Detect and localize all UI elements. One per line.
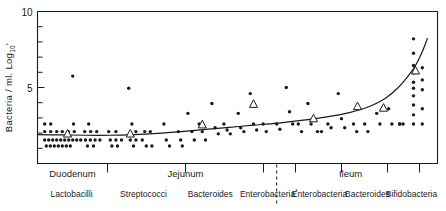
data-point — [366, 130, 369, 133]
data-point — [95, 130, 98, 133]
data-point — [149, 130, 152, 133]
data-point — [145, 144, 148, 147]
data-point — [229, 132, 232, 135]
axis-labels: 105Bacteria / ml. Log10'DuodenumJejunumI… — [3, 7, 438, 200]
data-point — [150, 144, 153, 147]
data-point — [109, 138, 112, 141]
group-label-5: Bacteroides — [345, 189, 390, 199]
data-point — [43, 122, 46, 125]
data-point — [329, 126, 332, 129]
data-point — [134, 130, 137, 133]
median-marker — [126, 129, 134, 137]
data-point — [401, 122, 404, 125]
data-point — [213, 126, 216, 129]
data-point — [61, 130, 64, 133]
data-point — [337, 92, 340, 95]
data-point — [65, 144, 68, 147]
region-label-ileum: Ileum — [339, 168, 362, 179]
data-point — [412, 37, 415, 40]
median-marker — [63, 129, 71, 137]
data-point — [134, 138, 137, 141]
data-point — [143, 130, 146, 133]
data-point — [79, 138, 82, 141]
data-point — [190, 130, 193, 133]
data-point — [255, 128, 258, 131]
data-point — [72, 122, 75, 125]
data-point — [55, 138, 58, 141]
data-point — [275, 122, 278, 125]
data-point — [47, 138, 50, 141]
data-point — [378, 122, 381, 125]
data-point — [55, 130, 58, 133]
ytick-label-5: 5 — [27, 83, 33, 94]
data-point — [421, 78, 424, 81]
data-point — [201, 130, 204, 133]
region-label-jejunum: Jejunum — [168, 168, 204, 179]
data-point — [86, 144, 89, 147]
data-point — [43, 130, 46, 133]
data-point — [45, 144, 48, 147]
data-point — [59, 138, 62, 141]
data-point — [222, 122, 225, 125]
median-marker — [353, 102, 361, 110]
data-point — [120, 138, 123, 141]
region-label-duodenum: Duodenum — [49, 168, 96, 179]
group-label-6: Bifidobacteria — [386, 189, 438, 199]
data-point — [387, 107, 390, 110]
data-point — [412, 80, 415, 83]
data-point — [162, 122, 165, 125]
data-point — [93, 138, 96, 141]
data-point — [265, 130, 268, 133]
data-point — [412, 52, 415, 55]
data-point — [98, 138, 101, 141]
data-point — [285, 86, 288, 89]
data-point — [63, 138, 66, 141]
data-point — [239, 126, 242, 129]
data-point — [75, 138, 78, 141]
data-point — [421, 66, 424, 69]
data-point — [110, 144, 113, 147]
data-point — [412, 94, 415, 97]
data-point — [217, 132, 220, 135]
data-point — [375, 112, 378, 115]
data-point — [252, 122, 255, 125]
data-point — [49, 122, 52, 125]
data-point — [390, 122, 393, 125]
group-label-3: Enterobacteria* — [240, 188, 298, 199]
data-point — [288, 110, 291, 113]
data-point — [165, 138, 168, 141]
data-point — [363, 122, 366, 125]
data-point — [51, 138, 54, 141]
data-point — [127, 87, 130, 90]
data-point — [141, 138, 144, 141]
data-point — [43, 138, 46, 141]
data-point — [87, 122, 90, 125]
data-point — [49, 130, 52, 133]
svg-text:Bacteria / ml. Log10': Bacteria / ml. Log10' — [3, 43, 16, 132]
data-point — [316, 130, 319, 133]
data-point — [398, 122, 401, 125]
data-point — [300, 130, 303, 133]
data-point — [132, 144, 135, 147]
data-point — [193, 138, 196, 141]
data-point — [186, 112, 189, 115]
data-point — [291, 122, 294, 125]
data-point — [89, 130, 92, 133]
data-point — [412, 103, 415, 106]
data-point — [306, 102, 309, 105]
group-label-1: Streptococci — [120, 189, 167, 199]
data-point — [412, 122, 415, 125]
ytick-label-10: 10 — [21, 7, 33, 18]
data-point — [83, 130, 86, 133]
data-point — [297, 122, 300, 125]
group-label-4: Enterobacteria — [292, 189, 348, 199]
data-point — [421, 107, 424, 110]
data-point — [114, 138, 117, 141]
data-point — [340, 117, 343, 120]
data-point — [168, 144, 171, 147]
data-point — [116, 144, 119, 147]
data-point — [130, 122, 133, 125]
data-point — [181, 144, 184, 147]
median-marker — [379, 104, 387, 112]
data-points — [43, 37, 424, 148]
